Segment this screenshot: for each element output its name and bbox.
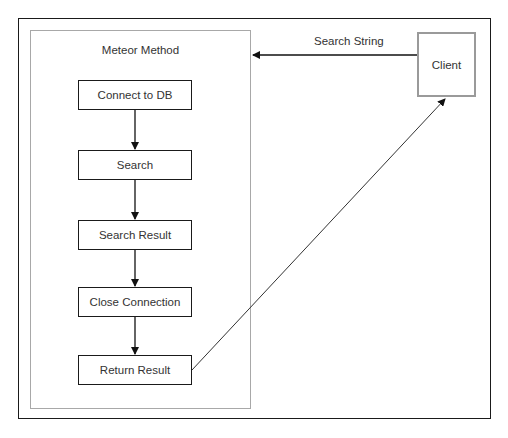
edges-layer: [0, 0, 508, 438]
arrow-return-to-client: [192, 99, 445, 370]
